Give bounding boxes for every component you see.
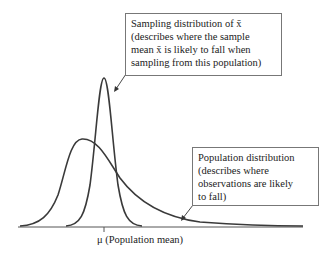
sampling-distribution-callout: Sampling distribution of x̄ (describes w… — [125, 13, 282, 76]
population-distribution-callout: Population distribution (describes where… — [192, 147, 319, 206]
population-mean-label: μ (Population mean) — [97, 234, 183, 245]
callout-line: Sampling distribution of x̄ — [131, 17, 276, 30]
callout-line: mean x̄ is likely to fall when — [131, 43, 276, 56]
callout-line: to fall) — [198, 190, 313, 203]
callout-line: Population distribution — [198, 151, 313, 164]
callout-line: observations are likely — [198, 177, 313, 190]
callout-line: (describes where — [198, 164, 313, 177]
callout-line: (describes where the sample — [131, 30, 276, 43]
callout-line: sampling from this population) — [131, 56, 276, 69]
sampling-curve — [66, 78, 142, 226]
population-arrow — [183, 205, 193, 218]
sampling-arrow — [116, 74, 126, 89]
